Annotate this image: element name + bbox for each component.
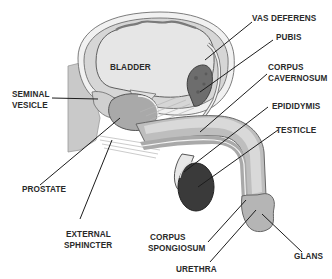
label-vas-deferens: VAS DEFERENS — [252, 14, 317, 23]
label-epididymis: EPIDIDYMIS — [272, 102, 321, 111]
label-glans: GLANS — [294, 252, 324, 261]
label-external-sphincter-line2: SPHINCTER — [64, 241, 112, 250]
label-urethra: URETHRA — [176, 265, 217, 274]
label-corpus-spongiosum-line1: CORPUS — [150, 233, 186, 242]
label-bladder: BLADDER — [110, 63, 151, 72]
leader-urethra — [210, 210, 256, 262]
leader-corpus-spongiosum — [208, 200, 246, 242]
leader-external-sphincter — [80, 140, 112, 219]
label-corpus-cavernosum-line1: CORPUS — [268, 63, 304, 72]
label-external-sphincter-line1: EXTERNAL — [66, 230, 111, 239]
label-corpus-cavernosum-line2: CAVERNOSUM — [268, 74, 328, 83]
label-seminal-vesicle-line1: SEMINAL — [12, 90, 50, 99]
label-prostate: PROSTATE — [22, 185, 67, 194]
label-corpus-spongiosum-line2: SPONGIOSUM — [148, 244, 205, 253]
label-seminal-vesicle-line2: VESICLE — [12, 101, 48, 110]
leader-glans — [262, 214, 302, 252]
label-pubis: PUBIS — [276, 33, 302, 42]
anatomy-diagram: BLADDER VAS DEFERENS PUBIS CORPUS CAVERN… — [0, 0, 332, 279]
glans — [241, 194, 274, 232]
label-testicle: TESTICLE — [276, 126, 317, 135]
